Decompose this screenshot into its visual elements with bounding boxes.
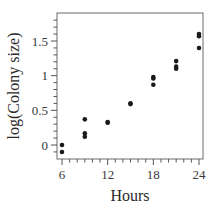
data-point — [83, 117, 88, 122]
x-tick-label: 18 — [147, 167, 160, 182]
y-axis-title: log(Colony size) — [5, 32, 23, 139]
data-point — [60, 143, 65, 148]
x-tick-label: 6 — [59, 167, 66, 182]
plot-border — [57, 13, 203, 159]
y-tick-label: 1 — [42, 68, 49, 83]
y-axis-ticks: 00.511.5 — [32, 20, 57, 152]
data-point — [197, 34, 202, 39]
x-axis-ticks: 6121824 — [59, 159, 206, 182]
x-tick-label: 12 — [101, 167, 114, 182]
scatter-chart: 6121824 00.511.5 Hours log(Colony size) — [0, 0, 212, 209]
data-point — [197, 46, 202, 51]
data-point — [151, 82, 156, 87]
data-point — [83, 134, 88, 139]
data-point — [60, 150, 65, 155]
data-point — [174, 59, 179, 64]
data-points — [60, 32, 202, 154]
x-axis-title: Hours — [110, 187, 149, 204]
data-point — [174, 66, 179, 71]
data-point — [105, 121, 110, 126]
x-tick-label: 24 — [193, 167, 207, 182]
data-point — [128, 102, 133, 107]
y-tick-label: 0.5 — [32, 103, 48, 118]
y-tick-label: 1.5 — [32, 34, 48, 49]
data-point — [151, 76, 156, 81]
plot-frame — [57, 13, 203, 159]
y-tick-label: 0 — [42, 138, 49, 153]
